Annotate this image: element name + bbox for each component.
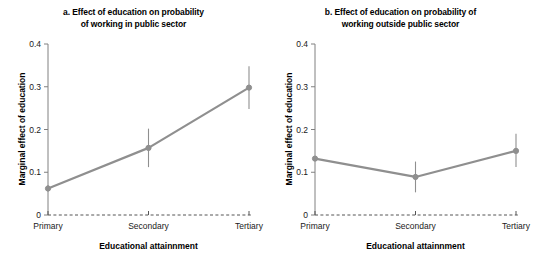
- y-tick-label: 0.3: [29, 82, 41, 92]
- y-tick-label: 0: [303, 210, 308, 220]
- data-point-marker: [413, 174, 418, 179]
- y-tick-label: 0.4: [29, 39, 41, 49]
- chart-panel-a: a. Effect of education on probability of…: [0, 0, 267, 262]
- panel-a-plot: 00.10.20.30.4PrimarySecondaryTertiary: [0, 0, 267, 262]
- y-tick-label: 0.3: [296, 82, 308, 92]
- x-tick-label: Primary: [33, 221, 63, 231]
- y-tick-label: 0.2: [296, 125, 308, 135]
- x-tick-label: Tertiary: [502, 221, 531, 231]
- x-tick-label: Secondary: [128, 221, 169, 231]
- chart-panel-b: b. Effect of education on probability of…: [267, 0, 534, 262]
- data-point-marker: [513, 148, 518, 153]
- panel-b-y-axis-label: Marginal effect of education: [283, 43, 293, 214]
- data-point-marker: [146, 145, 151, 150]
- data-point-marker: [45, 186, 50, 191]
- panel-a-x-axis-label: Educational attainnment: [48, 241, 249, 251]
- y-tick-label: 0: [36, 210, 41, 220]
- y-tick-label: 0.1: [29, 167, 41, 177]
- panel-b-x-axis-label: Educational attainnment: [315, 241, 516, 251]
- y-tick-label: 0.1: [296, 167, 308, 177]
- x-tick-label: Secondary: [395, 221, 436, 231]
- y-tick-label: 0.4: [296, 39, 308, 49]
- y-tick-label: 0.2: [29, 125, 41, 135]
- x-tick-label: Tertiary: [235, 221, 264, 231]
- panel-a-y-axis-label: Marginal effect of education: [16, 43, 26, 214]
- panel-b-plot: 00.10.20.30.4PrimarySecondaryTertiary: [267, 0, 534, 262]
- data-point-marker: [312, 156, 317, 161]
- x-tick-label: Primary: [300, 221, 330, 231]
- figure-two-panel-chart: a. Effect of education on probability of…: [0, 0, 535, 262]
- data-point-marker: [246, 85, 251, 90]
